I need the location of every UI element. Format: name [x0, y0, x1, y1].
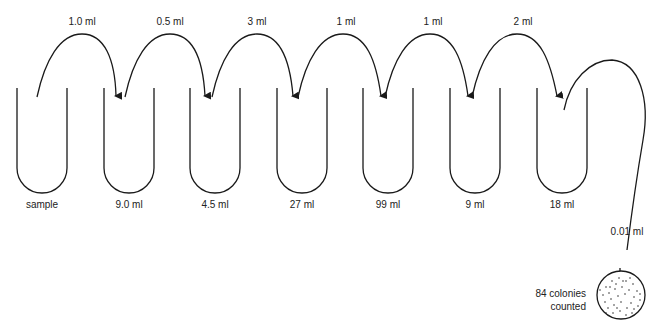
transfer-arrow-6 — [472, 34, 557, 97]
transfer-label-2: 0.5 ml — [156, 16, 183, 27]
agar-plate — [597, 271, 645, 319]
transfer-label-1: 1.0 ml — [68, 16, 95, 27]
transfer-label-4: 1 ml — [337, 16, 356, 27]
transfer-arrow-5 — [385, 34, 468, 97]
tube-label-6: 18 ml — [550, 199, 574, 210]
test-tube-3 — [277, 88, 327, 193]
colony-count-label: 84 colonies counted — [535, 287, 586, 313]
test-tube-4 — [363, 88, 413, 193]
tube-label-5: 9 ml — [466, 199, 485, 210]
tube-label-4: 99 ml — [376, 199, 400, 210]
tube-label-2: 4.5 ml — [201, 199, 228, 210]
test-tube-5 — [450, 88, 500, 193]
colony-count-line2: counted — [535, 300, 586, 313]
transfer-arrow-3 — [212, 34, 293, 97]
transfer-label-3: 3 ml — [248, 16, 267, 27]
test-tube-1 — [104, 88, 154, 193]
transfer-arrow-2 — [125, 34, 205, 97]
transfer-label-6: 2 ml — [514, 16, 533, 27]
plating-arrow-curve — [564, 60, 645, 250]
transfer-arrow-1 — [37, 34, 116, 97]
colony-count-line1: 84 colonies — [535, 287, 586, 300]
tube-label-1: 9.0 ml — [115, 199, 142, 210]
test-tube-2 — [190, 88, 240, 193]
test-tube-0 — [17, 88, 67, 193]
tube-label-3: 27 ml — [290, 199, 314, 210]
transfer-arrow-4 — [298, 34, 381, 97]
serial-dilution-diagram — [0, 0, 662, 326]
transfer-label-5: 1 ml — [424, 16, 443, 27]
plating-volume-label: 0.01 ml — [611, 226, 644, 237]
test-tube-6 — [537, 88, 587, 193]
tube-label-0: sample — [26, 199, 58, 210]
